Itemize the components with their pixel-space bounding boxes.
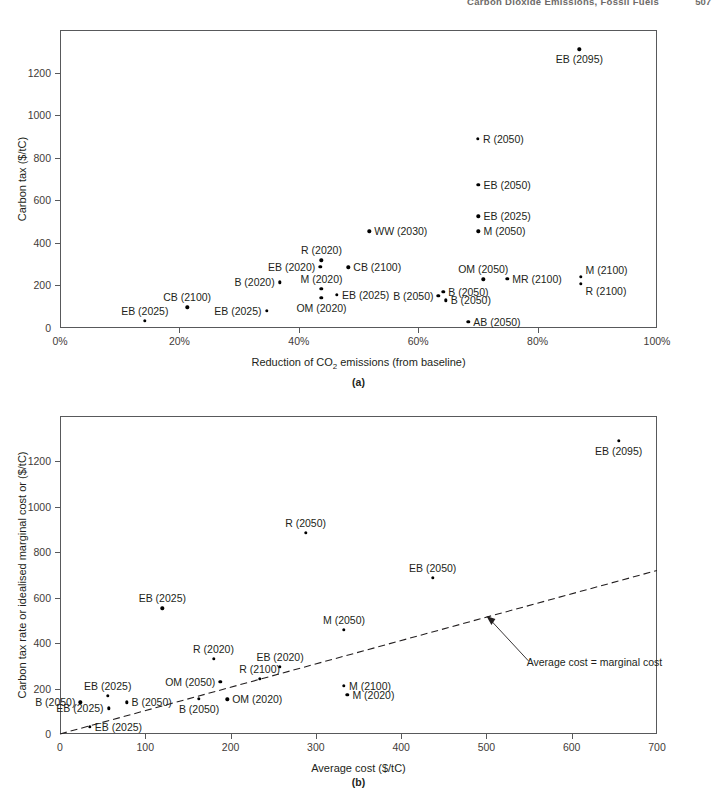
figure-caption: (a) — [352, 376, 365, 388]
y-axis-tick — [55, 200, 60, 201]
x-axis-tick — [299, 328, 300, 333]
y-axis-tick-label: 0 — [20, 322, 51, 334]
figure-b: 0100200300400500600700020040060080010001… — [0, 404, 717, 798]
x-axis-tick — [179, 328, 180, 333]
data-point-label: EB (2025) — [483, 210, 530, 222]
x-axis-tick-label: 500 — [478, 741, 496, 753]
x-axis-tick — [572, 734, 573, 739]
x-axis-tick — [486, 734, 487, 739]
y-axis-tick — [55, 73, 60, 74]
data-point-label: OM (2020) — [232, 693, 282, 705]
data-point-label: EB (2020) — [268, 261, 315, 273]
x-axis-tick — [538, 328, 539, 333]
data-point-label: OM (2050) — [165, 676, 215, 688]
x-axis-tick — [418, 328, 419, 333]
data-point-label: EB (2095) — [595, 445, 642, 457]
y-axis-tick — [55, 552, 60, 553]
y-axis-tick — [55, 158, 60, 159]
data-point-label: EB (2095) — [556, 53, 603, 65]
y-axis-tick — [55, 285, 60, 286]
data-point-label: M (2100) — [586, 264, 628, 276]
y-axis-tick — [55, 507, 60, 508]
x-axis-tick — [231, 734, 232, 739]
data-point-label: EB (2025) — [95, 721, 142, 733]
data-point-label: EB (2050) — [409, 562, 456, 574]
y-axis-tick-label: 1000 — [20, 109, 51, 121]
data-point-label: R (2020) — [301, 244, 342, 256]
x-axis-tick-label: 100 — [137, 741, 155, 753]
x-axis-tick-label: 0% — [52, 335, 67, 347]
data-point-label: OM (2050) — [458, 263, 508, 275]
page-number: 507 — [695, 0, 711, 7]
x-axis-title: Average cost ($/tC) — [311, 762, 406, 774]
data-point-label: R (2020) — [193, 643, 234, 655]
data-point-label: EB (2025) — [139, 592, 186, 604]
data-point-label: B (2050) — [179, 703, 219, 715]
y-axis-tick — [55, 643, 60, 644]
data-point-label: MR (2100) — [512, 273, 562, 285]
x-axis-tick-label: 40% — [288, 335, 309, 347]
data-point-label: R (2100) — [239, 663, 280, 675]
data-point-label: B (2050) — [393, 290, 433, 302]
data-point-label: EB (2025) — [121, 305, 168, 317]
x-axis-tick-label: 20% — [169, 335, 190, 347]
y-axis-title: Carbon tax ($/tC) — [16, 137, 28, 221]
data-point-label: EB (2050) — [483, 179, 530, 191]
data-point-label: EB (2025) — [342, 289, 389, 301]
data-point-label: AB (2050) — [473, 316, 520, 328]
data-point-label: WW (2030) — [374, 225, 427, 237]
data-point-label: B (2020) — [234, 276, 274, 288]
page-header-title: Carbon Dioxide Emissions, Fossil Fuels — [467, 0, 659, 7]
x-axis-tick — [401, 734, 402, 739]
y-axis-tick — [55, 461, 60, 462]
y-axis-tick-label: 1200 — [20, 67, 51, 79]
data-point-label: M (2020) — [352, 689, 394, 701]
y-axis-tick-label: 200 — [20, 279, 51, 291]
y-axis-tick-label: 400 — [20, 237, 51, 249]
x-axis-tick — [145, 734, 146, 739]
page-header: Carbon Dioxide Emissions, Fossil Fuels 5… — [0, 0, 717, 12]
parity-line-annotation: Average cost = marginal cost — [527, 656, 663, 668]
y-axis-title: Carbon tax rate or idealised marginal co… — [16, 452, 28, 699]
x-axis-tick-label: 700 — [648, 741, 666, 753]
data-point-label: R (2050) — [285, 517, 326, 529]
x-axis-tick-label: 300 — [307, 741, 325, 753]
y-axis-tick — [55, 115, 60, 116]
x-axis-tick-label: 600 — [563, 741, 581, 753]
x-axis-tick-label: 100% — [644, 335, 671, 347]
data-point-label: CB (2100) — [163, 291, 211, 303]
data-point-label: R (2100) — [586, 285, 627, 297]
data-point-label: CB (2100) — [353, 261, 401, 273]
y-axis-tick — [55, 243, 60, 244]
figure-caption: (b) — [352, 776, 365, 788]
data-point-label: M (2050) — [323, 614, 365, 626]
x-axis-title: Reduction of CO2 emissions (from baselin… — [251, 356, 465, 371]
data-point-label: EB (2025) — [84, 680, 131, 692]
x-axis-tick-label: 400 — [392, 741, 410, 753]
x-axis-tick-label: 0 — [57, 741, 63, 753]
figure-a: 0%20%40%60%80%100%020040060080010001200R… — [0, 18, 717, 400]
data-point-label: M (2050) — [483, 225, 525, 237]
x-axis-tick — [316, 734, 317, 739]
data-point-label: B (2050) — [35, 696, 75, 708]
data-point-label: B (2050) — [451, 294, 491, 306]
y-axis-tick — [55, 598, 60, 599]
x-axis-tick-label: 200 — [222, 741, 240, 753]
data-point-label: R (2050) — [483, 133, 524, 145]
data-point-label: M (2020) — [300, 273, 342, 285]
x-axis-tick-label: 80% — [527, 335, 548, 347]
plot-area — [60, 30, 657, 328]
y-axis-tick-label: 0 — [20, 728, 51, 740]
data-point-label: B (2050) — [132, 696, 172, 708]
data-point-label: EB (2020) — [256, 651, 303, 663]
x-axis-tick-label: 60% — [408, 335, 429, 347]
y-axis-tick — [55, 689, 60, 690]
data-point-label: EB (2025) — [214, 305, 261, 317]
data-point-label: OM (2020) — [296, 302, 346, 314]
